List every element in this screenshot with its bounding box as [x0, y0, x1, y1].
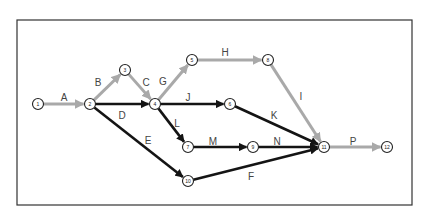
activity-arrow-l — [158, 108, 184, 141]
diagram-frame — [17, 20, 412, 205]
event-node-12: 12 — [382, 142, 393, 153]
edge-labels-group: ABCDEGHIJKLMNFP — [61, 47, 357, 182]
activity-label-g: G — [159, 76, 167, 87]
activity-label-h: H — [221, 47, 228, 58]
node-number: 2 — [89, 101, 92, 107]
event-node-5: 5 — [187, 55, 198, 66]
node-number: 12 — [384, 144, 390, 150]
node-number: 6 — [229, 101, 232, 107]
node-number: 1 — [37, 101, 40, 107]
activity-label-i: I — [300, 91, 303, 102]
activity-label-a: A — [61, 92, 68, 103]
node-number: 9 — [252, 144, 255, 150]
network-diagram: ABCDEGHIJKLMNFP 123456789101112 — [0, 0, 425, 215]
event-node-3: 3 — [120, 65, 131, 76]
activity-label-b: B — [95, 77, 102, 88]
activity-label-c: C — [142, 77, 149, 88]
event-node-9: 9 — [248, 142, 259, 153]
activity-label-k: K — [271, 110, 278, 121]
node-number: 5 — [191, 57, 194, 63]
node-number: 11 — [321, 144, 326, 150]
event-node-7: 7 — [183, 142, 194, 153]
activity-label-m: M — [209, 136, 217, 147]
activity-label-p: P — [350, 136, 357, 147]
nodes-group: 123456789101112 — [33, 55, 393, 187]
event-node-8: 8 — [263, 55, 274, 66]
activity-label-f: F — [248, 171, 254, 182]
node-number: 8 — [267, 57, 270, 63]
activity-label-d: D — [118, 110, 125, 121]
activity-label-j: J — [186, 92, 191, 103]
event-node-11: 11 — [319, 142, 330, 153]
event-node-1: 1 — [33, 99, 44, 110]
event-node-2: 2 — [85, 99, 96, 110]
activity-label-l: L — [174, 118, 180, 129]
activity-arrow-i — [271, 65, 321, 142]
event-node-10: 10 — [183, 176, 194, 187]
node-number: 10 — [185, 178, 191, 184]
activity-label-n: N — [273, 136, 280, 147]
node-number: 7 — [187, 144, 190, 150]
event-node-6: 6 — [225, 99, 236, 110]
activity-label-e: E — [145, 135, 152, 146]
event-node-4: 4 — [150, 99, 161, 110]
activity-arrow-e — [94, 107, 183, 177]
activity-arrow-f — [193, 149, 317, 180]
node-number: 3 — [124, 67, 127, 73]
node-number: 4 — [154, 101, 157, 107]
